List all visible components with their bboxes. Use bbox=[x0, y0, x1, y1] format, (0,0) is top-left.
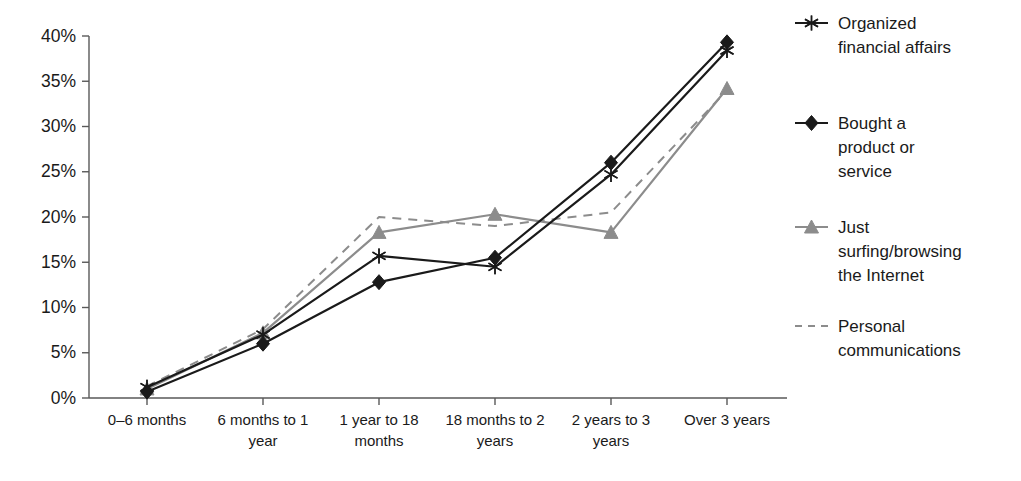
y-axis-tick-label: 25% bbox=[41, 161, 76, 181]
series-personal-communications bbox=[147, 90, 727, 386]
legend-item-label: Bought aproduct orservice bbox=[838, 114, 915, 181]
x-axis-tick-label: 0–6 months bbox=[108, 411, 186, 428]
series-bought-a-product-or-service bbox=[141, 35, 734, 399]
x-axis-tick-label: 1 year to 18months bbox=[339, 411, 418, 449]
y-axis-tick-label: 35% bbox=[41, 71, 76, 91]
x-axis-tick-label: 6 months to 1year bbox=[218, 411, 309, 449]
legend-item-label: Justsurfing/browsingthe Internet bbox=[838, 218, 962, 285]
line-chart: 0%5%10%15%20%25%30%35%40%0–6 months6 mon… bbox=[0, 0, 1021, 481]
series-line bbox=[147, 42, 727, 391]
x-axis-tick-label: Over 3 years bbox=[684, 411, 770, 428]
chart-legend: Organizedfinancial affairsBought aproduc… bbox=[795, 14, 962, 360]
y-axis-tick-label: 0% bbox=[51, 388, 76, 408]
legend-item-1[interactable]: Organizedfinancial affairs bbox=[795, 14, 951, 57]
x-axis-tick-label: 2 years to 3years bbox=[572, 411, 650, 449]
y-axis-tick-label: 30% bbox=[41, 116, 76, 136]
series-organized-financial-affairs bbox=[141, 43, 734, 395]
x-axis-tick-label: 18 months to 2years bbox=[445, 411, 544, 449]
legend-item-3[interactable]: Justsurfing/browsingthe Internet bbox=[795, 218, 962, 285]
y-axis-tick-label: 20% bbox=[41, 207, 76, 227]
data-point-triangle-marker bbox=[720, 81, 734, 94]
y-axis-tick-label: 10% bbox=[41, 297, 76, 317]
series-line bbox=[147, 90, 727, 386]
legend-item-2[interactable]: Bought aproduct orservice bbox=[795, 114, 915, 181]
data-point-triangle-marker bbox=[488, 207, 502, 220]
chart-container: 0%5%10%15%20%25%30%35%40%0–6 months6 mon… bbox=[0, 0, 1021, 481]
legend-item-label: Personalcommunications bbox=[838, 317, 961, 360]
y-axis-tick-label: 5% bbox=[51, 342, 76, 362]
series-line bbox=[147, 50, 727, 387]
legend-item-label: Organizedfinancial affairs bbox=[838, 14, 951, 57]
legend-2-diamond-marker bbox=[805, 116, 818, 131]
legend-item-4[interactable]: Personalcommunications bbox=[795, 317, 961, 360]
y-axis-tick-label: 15% bbox=[41, 252, 76, 272]
y-axis-tick-label: 40% bbox=[41, 26, 76, 46]
data-point-diamond-marker bbox=[373, 275, 386, 290]
